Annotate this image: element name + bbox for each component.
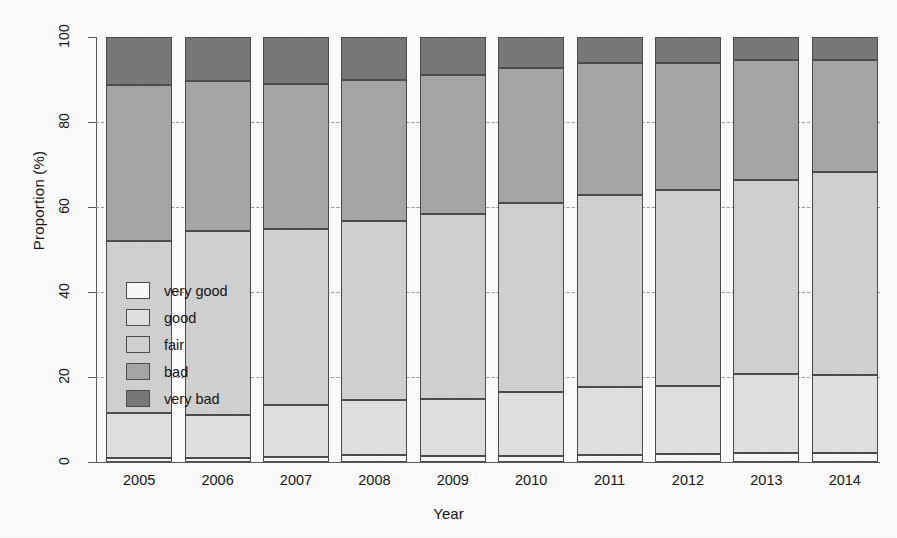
bar-segment-bad-2013[interactable] bbox=[733, 60, 799, 181]
y-tick-label: 20 bbox=[56, 356, 72, 396]
legend-item-very-good[interactable]: very good bbox=[126, 277, 276, 304]
y-tick-label: 60 bbox=[56, 186, 72, 226]
legend-label-fair: fair bbox=[164, 337, 184, 353]
bar-segment-good-2013[interactable] bbox=[733, 374, 799, 453]
bar-segment-very-good-2007[interactable] bbox=[263, 457, 329, 462]
bar-segment-very-bad-2007[interactable] bbox=[263, 37, 329, 84]
legend-item-good[interactable]: good bbox=[126, 304, 276, 331]
legend-item-very-bad[interactable]: very bad bbox=[126, 385, 276, 412]
bar-segment-very-good-2012[interactable] bbox=[655, 454, 721, 463]
bar-segment-bad-2006[interactable] bbox=[185, 81, 251, 231]
bar-segment-very-good-2005[interactable] bbox=[106, 458, 172, 462]
bar-segment-very-bad-2013[interactable] bbox=[733, 37, 799, 60]
bar-segment-good-2007[interactable] bbox=[263, 405, 329, 457]
bar-segment-good-2012[interactable] bbox=[655, 386, 721, 454]
bar-2009[interactable] bbox=[420, 37, 486, 462]
bar-2013[interactable] bbox=[733, 37, 799, 462]
bar-2008[interactable] bbox=[341, 37, 407, 462]
legend-label-bad: bad bbox=[164, 364, 188, 380]
y-tick-mark bbox=[88, 377, 96, 378]
bar-segment-very-bad-2008[interactable] bbox=[341, 37, 407, 80]
y-tick-label: 100 bbox=[56, 16, 72, 56]
y-tick-mark bbox=[88, 462, 96, 463]
bar-segment-good-2010[interactable] bbox=[498, 392, 564, 456]
x-axis-line bbox=[96, 462, 880, 463]
bar-segment-very-good-2014[interactable] bbox=[812, 453, 878, 462]
bar-segment-good-2005[interactable] bbox=[106, 413, 172, 458]
bar-segment-bad-2007[interactable] bbox=[263, 84, 329, 229]
x-axis-title: Year bbox=[0, 505, 897, 522]
x-tick-label-2006: 2006 bbox=[178, 472, 258, 488]
bar-segment-very-good-2009[interactable] bbox=[420, 456, 486, 462]
x-tick-label-2014: 2014 bbox=[805, 472, 885, 488]
chart-legend: very goodgoodfairbadvery bad bbox=[126, 277, 276, 412]
bar-segment-very-good-2006[interactable] bbox=[185, 458, 251, 462]
bar-segment-bad-2005[interactable] bbox=[106, 85, 172, 242]
x-tick-label-2011: 2011 bbox=[570, 472, 650, 488]
bar-segment-bad-2009[interactable] bbox=[420, 75, 486, 214]
legend-item-bad[interactable]: bad bbox=[126, 358, 276, 385]
bar-segment-fair-2014[interactable] bbox=[812, 172, 878, 375]
x-tick-label-2013: 2013 bbox=[726, 472, 806, 488]
y-tick-mark bbox=[88, 292, 96, 293]
legend-label-good: good bbox=[164, 310, 196, 326]
y-tick-mark bbox=[88, 207, 96, 208]
bar-segment-very-good-2011[interactable] bbox=[577, 455, 643, 462]
bar-segment-good-2008[interactable] bbox=[341, 400, 407, 455]
bar-segment-very-bad-2011[interactable] bbox=[577, 37, 643, 63]
legend-swatch-bad bbox=[126, 363, 150, 380]
stacked-bar-chart-figure: Proportion (%) 020406080100 200520062007… bbox=[0, 0, 897, 538]
bar-segment-fair-2010[interactable] bbox=[498, 203, 564, 392]
x-tick-label-2009: 2009 bbox=[413, 472, 493, 488]
bar-segment-bad-2008[interactable] bbox=[341, 80, 407, 222]
bar-segment-very-good-2013[interactable] bbox=[733, 453, 799, 462]
bar-segment-very-bad-2006[interactable] bbox=[185, 37, 251, 81]
bar-segment-good-2011[interactable] bbox=[577, 387, 643, 455]
bar-segment-very-good-2010[interactable] bbox=[498, 456, 564, 462]
bar-segment-good-2014[interactable] bbox=[812, 375, 878, 453]
x-tick-label-2010: 2010 bbox=[491, 472, 571, 488]
bar-segment-very-bad-2005[interactable] bbox=[106, 37, 172, 85]
bar-segment-very-bad-2010[interactable] bbox=[498, 37, 564, 68]
bar-segment-bad-2012[interactable] bbox=[655, 63, 721, 190]
bar-segment-very-bad-2009[interactable] bbox=[420, 37, 486, 75]
bar-segment-very-good-2008[interactable] bbox=[341, 455, 407, 462]
bar-segment-bad-2014[interactable] bbox=[812, 60, 878, 172]
y-tick-label: 40 bbox=[56, 271, 72, 311]
bar-segment-fair-2013[interactable] bbox=[733, 180, 799, 373]
bar-segment-bad-2010[interactable] bbox=[498, 68, 564, 203]
x-tick-label-2012: 2012 bbox=[648, 472, 728, 488]
bar-segment-good-2009[interactable] bbox=[420, 399, 486, 456]
y-tick-label: 0 bbox=[56, 441, 72, 481]
bar-segment-bad-2011[interactable] bbox=[577, 63, 643, 195]
bar-segment-good-2006[interactable] bbox=[185, 415, 251, 458]
x-tick-label-2005: 2005 bbox=[99, 472, 179, 488]
legend-label-very-good: very good bbox=[164, 283, 228, 299]
x-tick-label-2007: 2007 bbox=[256, 472, 336, 488]
legend-item-fair[interactable]: fair bbox=[126, 331, 276, 358]
bar-segment-very-bad-2012[interactable] bbox=[655, 37, 721, 63]
x-tick-label-2008: 2008 bbox=[334, 472, 414, 488]
y-axis-title: Proportion (%) bbox=[30, 101, 47, 301]
legend-swatch-very-good bbox=[126, 282, 150, 299]
bar-2012[interactable] bbox=[655, 37, 721, 462]
bar-2014[interactable] bbox=[812, 37, 878, 462]
legend-swatch-fair bbox=[126, 336, 150, 353]
y-tick-mark bbox=[88, 37, 96, 38]
bar-segment-fair-2012[interactable] bbox=[655, 190, 721, 386]
bar-2010[interactable] bbox=[498, 37, 564, 462]
bar-segment-fair-2011[interactable] bbox=[577, 195, 643, 388]
legend-label-very-bad: very bad bbox=[164, 391, 220, 407]
bar-2011[interactable] bbox=[577, 37, 643, 462]
legend-swatch-good bbox=[126, 309, 150, 326]
y-tick-label: 80 bbox=[56, 101, 72, 141]
bar-segment-fair-2008[interactable] bbox=[341, 221, 407, 400]
bar-segment-very-bad-2014[interactable] bbox=[812, 37, 878, 60]
legend-swatch-very-bad bbox=[126, 390, 150, 407]
bar-segment-fair-2009[interactable] bbox=[420, 214, 486, 399]
y-tick-mark bbox=[88, 122, 96, 123]
